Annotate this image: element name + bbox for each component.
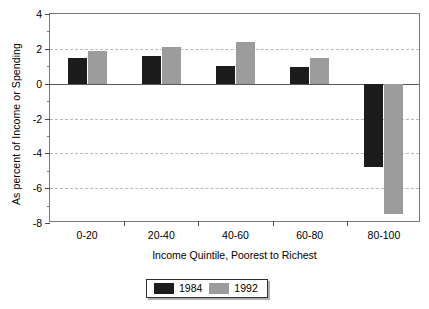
y-axis-tick-label: 0 [36,78,42,89]
x-axis-tick [124,221,125,226]
x-axis-tick [347,221,348,226]
bar-1984-60-80 [290,67,309,84]
bar-1992-0-20 [88,51,107,83]
y-axis-minor-tick [47,101,50,102]
y-axis-tick-label: -4 [33,148,42,159]
y-axis-minor-tick [47,66,50,67]
x-axis-tick [198,221,199,226]
legend-label: 1992 [234,283,257,294]
y-axis-title: As percent of Income or Spending [10,14,22,234]
gridline [50,188,419,189]
x-axis-tick [273,221,274,226]
y-axis-tick-label: -2 [33,113,42,124]
legend-item: 1984 [154,283,202,294]
bar-1992-20-40 [162,47,181,84]
x-axis-tick-label: 20-40 [148,230,175,241]
bar-1984-20-40 [142,56,161,84]
bar-1992-60-80 [310,58,329,83]
y-axis-tick [45,188,50,189]
y-axis-minor-tick [47,206,50,207]
y-axis-minor-tick [47,136,50,137]
x-axis-tick-label: 60-80 [296,230,323,241]
legend-swatch-1984-icon [154,283,174,294]
y-axis-tick [45,153,50,154]
bar-chart: As percent of Income or Spending 420-2-4… [0,0,429,309]
y-axis-tick [45,14,50,15]
gridline [50,49,419,50]
y-axis-tick [45,49,50,50]
plot-area: 420-2-4-6-80-2020-4040-6060-8080-100 [49,13,420,222]
y-axis-tick-label: -8 [33,218,42,229]
x-axis-tick-label: 0-20 [77,230,98,241]
legend-swatch-1992-icon [209,283,229,294]
bar-1992-40-60 [236,42,255,84]
y-axis-minor-tick [47,31,50,32]
chart-legend: 1984 1992 [146,279,268,298]
y-axis-tick-label: -6 [33,183,42,194]
y-axis-minor-tick [47,171,50,172]
bar-1984-0-20 [68,58,87,84]
bar-1984-80-100 [364,84,383,168]
x-axis-title: Income Quintile, Poorest to Richest [49,249,420,261]
x-axis-tick-label: 40-60 [222,230,249,241]
y-axis-tick-label: 2 [36,44,42,55]
legend-label: 1984 [179,283,202,294]
y-axis-tick-label: 4 [36,9,42,20]
x-axis-tick-label: 80-100 [368,230,401,241]
y-axis-tick [45,223,50,224]
bar-1992-80-100 [384,84,403,215]
y-axis-tick [45,119,50,120]
bar-1984-40-60 [216,66,235,83]
legend-item: 1992 [209,283,257,294]
